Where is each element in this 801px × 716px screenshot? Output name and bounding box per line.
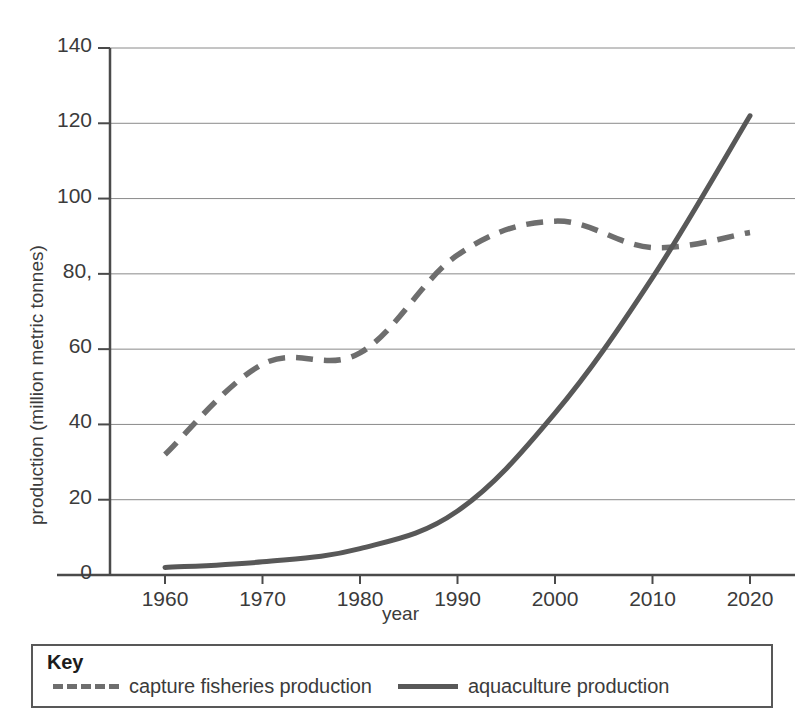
legend-entries: capture fisheries productionaquaculture … [47, 675, 757, 698]
legend-title: Key [47, 651, 757, 674]
chart-canvas [0, 0, 801, 630]
legend-entry-label: aquaculture production [468, 675, 669, 698]
y-tick-marks-group [98, 48, 110, 575]
x-tick-marks-group [165, 575, 750, 584]
x-axis-title: year [0, 603, 801, 625]
y-axis-title: production (million metric tonnes) [26, 245, 48, 525]
gridlines-group [110, 48, 795, 500]
y-tick-label: 140 [22, 33, 92, 57]
solid-line-icon [398, 684, 458, 689]
y-tick-label: 0 [22, 560, 92, 584]
y-tick-label: 100 [22, 184, 92, 208]
chart-plot-area: 020406080,100120140 19601970198019902000… [0, 0, 801, 630]
legend-entry-1: capture fisheries production [47, 675, 372, 698]
series-line-1 [165, 221, 750, 454]
legend-key-box: Key capture fisheries productionaquacult… [31, 644, 773, 708]
y-tick-label: 120 [22, 108, 92, 132]
legend-entry-label: capture fisheries production [129, 675, 372, 698]
dashed-line-icon [53, 684, 119, 689]
line-chart-figure: 020406080,100120140 19601970198019902000… [0, 0, 801, 716]
legend-entry-2: aquaculture production [398, 675, 669, 698]
